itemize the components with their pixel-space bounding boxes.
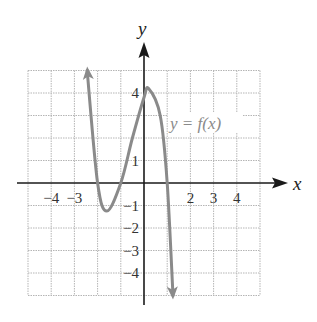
y-tick-label: −4 bbox=[123, 265, 139, 281]
x-axis-label: x bbox=[292, 173, 302, 194]
y-tick-label: −3 bbox=[123, 243, 139, 259]
x-tick-label: 3 bbox=[210, 190, 218, 206]
x-tick-labels: −4−3234 bbox=[43, 190, 241, 206]
function-graph: x y −4−3234 41−1−2−3−4 y = f(x) bbox=[0, 0, 317, 322]
x-tick-label: 4 bbox=[233, 190, 241, 206]
x-tick-label: −4 bbox=[43, 190, 59, 206]
x-tick-label: 2 bbox=[187, 190, 195, 206]
x-tick-label: −3 bbox=[66, 190, 82, 206]
y-tick-label: −1 bbox=[123, 198, 139, 214]
function-label: y = f(x) bbox=[168, 114, 221, 133]
y-tick-label: −2 bbox=[123, 220, 139, 236]
y-tick-label: 4 bbox=[132, 85, 140, 101]
y-tick-label: 1 bbox=[132, 153, 140, 169]
x-axis: x bbox=[17, 173, 302, 194]
y-axis-label: y bbox=[136, 18, 147, 39]
